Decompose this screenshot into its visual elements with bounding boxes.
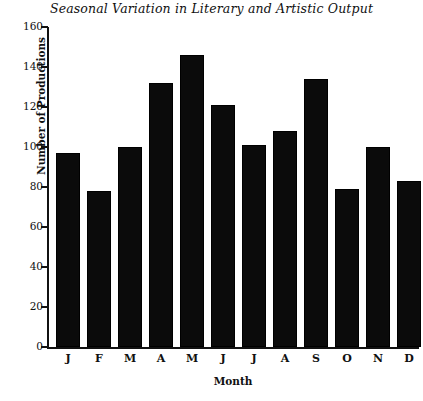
x-tick-label: M — [118, 352, 142, 365]
x-axis-spine — [47, 347, 419, 349]
x-tick-label: S — [304, 352, 328, 365]
y-tick-label: 60 — [30, 220, 43, 232]
x-tick-label: A — [273, 352, 297, 365]
bar — [56, 153, 80, 347]
plot-area: 020406080100120140160 JFMAMJJASOND Month — [47, 27, 419, 347]
y-tick-label: 40 — [30, 260, 43, 272]
x-tick-label: A — [149, 352, 173, 365]
bar — [118, 147, 142, 347]
bar-series — [47, 27, 419, 347]
x-tick-label: J — [211, 352, 235, 365]
bar-chart-figure: Seasonal Variation in Literary and Artis… — [0, 0, 423, 401]
y-tick-label: 140 — [23, 60, 43, 72]
bar — [304, 79, 328, 347]
x-axis-label: Month — [47, 375, 419, 387]
x-tick-label: O — [335, 352, 359, 365]
bar — [211, 105, 235, 347]
y-tick-label: 0 — [36, 340, 43, 352]
bar — [87, 191, 111, 347]
bar — [180, 55, 204, 347]
bar — [366, 147, 390, 347]
x-tick-label: D — [397, 352, 421, 365]
y-tick-label: 160 — [23, 20, 43, 32]
y-tick-label: 80 — [30, 180, 43, 192]
bar — [242, 145, 266, 347]
x-tick-label: F — [87, 352, 111, 365]
bar — [335, 189, 359, 347]
x-tick-label: J — [56, 352, 80, 365]
x-tick-label: M — [180, 352, 204, 365]
bar — [273, 131, 297, 347]
x-tick-label: N — [366, 352, 390, 365]
y-tick-label: 120 — [23, 100, 43, 112]
y-tick-label: 20 — [30, 300, 43, 312]
y-tick-label: 100 — [23, 140, 43, 152]
x-tick-label: J — [242, 352, 266, 365]
bar — [149, 83, 173, 347]
chart-title: Seasonal Variation in Literary and Artis… — [0, 1, 423, 16]
bar — [397, 181, 421, 347]
